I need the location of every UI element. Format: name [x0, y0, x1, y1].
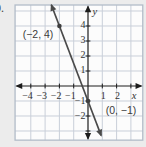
- x-tick-label: −4: [22, 90, 33, 101]
- x-tick-label: −3: [36, 90, 47, 101]
- point-dot: [86, 99, 91, 104]
- x-tick-label: −2: [51, 90, 62, 101]
- problem-number-partial: 0.: [0, 1, 4, 16]
- textbook-graph-figure: 0. −4−3−2−1124321−1−2xy(−2, 4)(0, −1): [0, 0, 146, 147]
- x-tick-label: 1: [101, 90, 106, 101]
- y-axis-letter: y: [92, 6, 98, 17]
- y-tick-label: −2: [75, 110, 86, 121]
- x-tick-label: 2: [115, 90, 120, 101]
- y-tick-label: 4: [81, 19, 86, 30]
- point-label: (−2, 4): [23, 28, 54, 40]
- point-label: (0, −1): [106, 104, 137, 116]
- y-tick-label: 1: [81, 64, 86, 75]
- coordinate-plane: −4−3−2−1124321−1−2xy(−2, 4)(0, −1): [0, 0, 146, 147]
- y-tick-label: 2: [81, 49, 86, 60]
- x-axis-letter: x: [131, 90, 137, 101]
- point-dot: [57, 24, 62, 29]
- y-tick-label: −1: [75, 95, 86, 106]
- y-tick-label: 3: [81, 34, 86, 45]
